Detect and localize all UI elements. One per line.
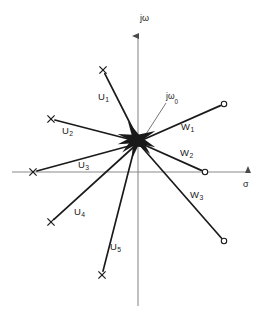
ray-w3-shaft — [140, 145, 221, 238]
ray-u3-label: U3 — [78, 160, 89, 170]
sigma-axis-label: σ — [243, 180, 249, 189]
ray-u4-x-marker — [47, 218, 54, 225]
ray-u1-x-marker — [99, 66, 106, 73]
j-omega-axis-label: jω — [140, 14, 149, 23]
ray-w1-o-marker — [221, 101, 226, 106]
axis-lines — [12, 36, 248, 306]
j-omega-zero-label: jω0 — [166, 92, 178, 103]
ray-u4-label: U4 — [74, 207, 85, 217]
annotation-leaders — [146, 103, 166, 134]
ray-u5-x-marker — [98, 271, 105, 278]
ray-w3-label: W3 — [190, 190, 203, 200]
ray-u5-label: U5 — [110, 242, 121, 252]
ray-w1-label: W1 — [181, 122, 194, 132]
ray-w2-o-marker — [202, 169, 207, 174]
ray-u2-x-marker — [47, 115, 54, 122]
ray-w2-label: W2 — [180, 148, 193, 158]
plot-canvas — [0, 0, 264, 324]
ray-w3-o-marker — [221, 238, 226, 243]
ray-u1-label: U1 — [98, 92, 109, 102]
s-plane-vector-figure: jω σ jω0 U1U2U3U4U5W1W2W3 — [0, 0, 264, 324]
ray-u2-label: U2 — [62, 126, 73, 136]
